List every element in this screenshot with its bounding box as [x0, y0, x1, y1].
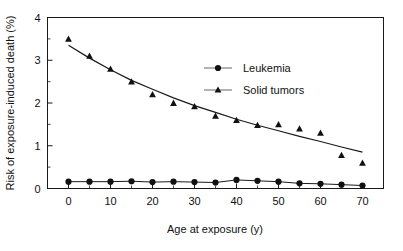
x-tick-label: 30	[188, 195, 200, 207]
circle-marker-icon	[275, 179, 281, 185]
circle-marker-icon	[191, 179, 197, 185]
circle-marker-icon	[107, 179, 113, 185]
circle-marker-icon	[296, 180, 302, 186]
circle-marker-icon	[254, 178, 260, 184]
circle-marker-icon	[128, 178, 134, 184]
x-axis-title: Age at exposure (y)	[167, 223, 263, 235]
x-tick-label: 60	[314, 195, 326, 207]
y-axis-title: Risk of exposure-induced death (%)	[4, 16, 16, 191]
circle-marker-icon	[317, 181, 323, 187]
legend-label-solid-tumors: Solid tumors	[243, 84, 305, 96]
circle-marker-icon	[86, 179, 92, 185]
circle-marker-icon	[170, 179, 176, 185]
x-tick-label: 10	[104, 195, 116, 207]
chart-figure: 010203040506070 01234 Age at exposure (y…	[0, 0, 403, 251]
chart-canvas: 010203040506070 01234 Age at exposure (y…	[0, 0, 403, 251]
x-tick-label: 0	[65, 195, 71, 207]
x-tick-label: 40	[230, 195, 242, 207]
y-tick-label: 1	[34, 140, 40, 152]
circle-marker-icon	[233, 177, 239, 183]
legend-label-leukemia: Leukemia	[243, 62, 292, 74]
y-tick-label: 4	[34, 12, 40, 24]
circle-marker-icon	[215, 65, 221, 71]
x-tick-label: 20	[146, 195, 158, 207]
x-tick-label: 50	[272, 195, 284, 207]
y-tick-label: 2	[34, 97, 40, 109]
circle-marker-icon	[338, 182, 344, 188]
figure-background	[0, 0, 403, 251]
circle-marker-icon	[212, 179, 218, 185]
circle-marker-icon	[65, 179, 71, 185]
y-tick-label: 0	[34, 183, 40, 195]
circle-marker-icon	[359, 182, 365, 188]
y-tick-label: 3	[34, 54, 40, 66]
circle-marker-icon	[149, 179, 155, 185]
x-tick-label: 70	[356, 195, 368, 207]
